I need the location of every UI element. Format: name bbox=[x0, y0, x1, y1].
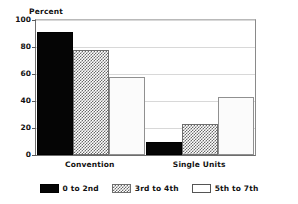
y-axis-tick-label: 60 bbox=[21, 70, 31, 78]
legend-swatch bbox=[112, 184, 131, 193]
bar bbox=[109, 77, 145, 155]
legend-item: 3rd to 4th bbox=[112, 184, 179, 193]
bar bbox=[37, 32, 73, 155]
legend-swatch bbox=[40, 184, 59, 193]
gridline bbox=[36, 20, 255, 21]
tick-mark bbox=[32, 74, 36, 75]
tick-mark bbox=[32, 155, 36, 156]
bar bbox=[146, 142, 182, 156]
tick-mark bbox=[32, 128, 36, 129]
y-axis-tick-label: 20 bbox=[21, 124, 31, 132]
tick-mark bbox=[32, 20, 36, 21]
bar bbox=[218, 97, 254, 155]
legend-label: 5th to 7th bbox=[215, 184, 259, 193]
legend-swatch bbox=[192, 184, 211, 193]
plot-area: 020406080100 bbox=[35, 19, 256, 156]
legend-item: 0 to 2nd bbox=[40, 184, 99, 193]
chart-legend: 0 to 2nd3rd to 4th5th to 7th bbox=[0, 184, 298, 193]
x-axis-category-label: Convention bbox=[65, 160, 114, 169]
legend-label: 0 to 2nd bbox=[63, 184, 99, 193]
legend-label: 3rd to 4th bbox=[135, 184, 179, 193]
bar bbox=[182, 124, 218, 155]
tick-mark bbox=[32, 101, 36, 102]
x-axis-category-label: Single Units bbox=[173, 160, 226, 169]
y-axis-tick-label: 100 bbox=[15, 16, 31, 24]
y-axis-label: Percent bbox=[29, 7, 63, 16]
legend-item: 5th to 7th bbox=[192, 184, 259, 193]
tick-mark bbox=[32, 47, 36, 48]
bar bbox=[73, 50, 109, 155]
y-axis-tick-label: 40 bbox=[21, 97, 31, 105]
y-axis-tick-label: 80 bbox=[21, 43, 31, 51]
bar-chart-figure: Percent 020406080100 ConventionSingle Un… bbox=[0, 0, 298, 204]
y-axis-tick-label: 0 bbox=[26, 151, 31, 159]
